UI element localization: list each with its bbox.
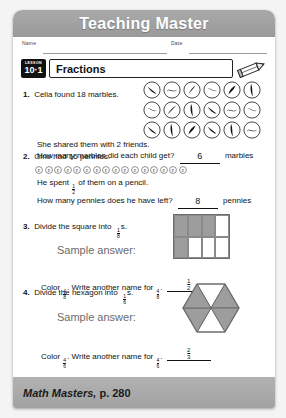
square-figure[interactable] (173, 214, 230, 259)
fraction-one-eighth: 1 8 (117, 228, 120, 239)
fraction-four-sixths-2: 4 6 (157, 358, 160, 369)
penny-icon: P (64, 166, 72, 174)
marble-icon (223, 81, 241, 99)
problem-1-number: 1. (23, 90, 30, 99)
penny-icon: P (93, 166, 101, 174)
page-background: Teaching Master Name Date LESSON 10·1 Fr… (0, 0, 286, 418)
problem-1: 1. Celia found 18 marbles. (23, 83, 265, 141)
marble-icon (183, 121, 201, 139)
fraction-denominator: 6 (63, 363, 66, 369)
banner-title: Teaching Master (79, 15, 209, 33)
penny-icon: P (73, 166, 81, 174)
marble-icon (183, 81, 201, 99)
square-cell[interactable] (215, 215, 229, 237)
fraction-denominator: 6 (123, 299, 126, 305)
penny-icon: P (45, 166, 53, 174)
marble-icon (203, 101, 221, 119)
penny-icon: P (160, 166, 168, 174)
problem-3-prompt-post: s. (121, 222, 127, 231)
problem-4-color-pre: Color (41, 352, 60, 361)
problem-3: 3. Divide the square into 1 8 s. Sample … (23, 215, 265, 277)
lesson-title: Fractions (56, 63, 106, 75)
marble-icon (143, 121, 161, 139)
lesson-title-box: Fractions (49, 59, 233, 78)
penny-icon: P (141, 166, 149, 174)
penny-icon: P (54, 166, 62, 174)
date-label: Date (171, 40, 182, 46)
hexagon-svg (175, 279, 247, 337)
penny-icon: P (112, 166, 120, 174)
name-label: Name (22, 40, 36, 46)
square-cell[interactable] (202, 237, 216, 259)
problem-4-prompt-pre: Divide the hexagon into (34, 288, 118, 297)
footer-source-line: Math Masters, p. 280 (23, 387, 131, 399)
problem-2-line2-pre: He spent (37, 178, 69, 187)
teaching-master-banner: Teaching Master (13, 10, 275, 37)
problem-2: 2. Gino had 16 pennies. P P P P P P P P … (23, 145, 265, 209)
fraction-four-sixths: 4 6 (63, 358, 66, 369)
date-input-line[interactable] (189, 53, 267, 54)
problem-2-line3: How many pennies does he have left? 8 pe… (37, 195, 265, 209)
problem-4-color-post: . (160, 352, 162, 361)
penny-icon: P (121, 166, 129, 174)
worksheet-footer: Math Masters, p. 280 (13, 377, 275, 408)
lesson-badge-number: 10·1 (24, 66, 42, 75)
fraction-one-half: 1 2 (72, 184, 75, 195)
worksheet-sheet: Teaching Master Name Date LESSON 10·1 Fr… (13, 10, 275, 408)
fraction-denominator: 6 (157, 363, 160, 369)
marble-icon (143, 101, 161, 119)
penny-collection: P P P P P P P P P P P P P P P P (35, 166, 265, 174)
hexagon-figure[interactable] (175, 279, 247, 335)
footer-page: p. 280 (99, 387, 130, 399)
marble-icon (163, 81, 181, 99)
penny-icon: P (150, 166, 158, 174)
problem-4: 4. Divide the hexagon into 1 6 s. Sample… (23, 281, 265, 349)
penny-icon: P (169, 166, 177, 174)
square-grid (173, 214, 230, 259)
problem-2-number: 2. (23, 152, 30, 161)
marble-icon (163, 121, 181, 139)
problem-3-number: 3. (23, 222, 30, 231)
problem-2-answer-blank[interactable]: 8 (178, 197, 218, 209)
problem-1-prompt: Celia found 18 marbles. (34, 90, 119, 99)
marble-icon (183, 101, 201, 119)
marble-collection (143, 81, 263, 141)
answer-denominator: 3 (187, 353, 190, 360)
name-input-line[interactable] (43, 53, 167, 54)
penny-icon: P (35, 166, 43, 174)
problem-2-question: How many pennies does he have left? (37, 196, 173, 205)
penny-icon: P (179, 166, 187, 174)
marble-icon (223, 101, 241, 119)
footer-source: Math Masters, (23, 387, 96, 399)
lesson-badge: LESSON 10·1 (21, 59, 46, 78)
square-cell[interactable] (202, 215, 216, 237)
marble-icon (223, 121, 241, 139)
problem-4-color-line: Color 4 6 . Write another name for 4 6 .… (41, 349, 265, 369)
square-cell[interactable] (174, 237, 188, 259)
problem-2-answer: 8 (195, 196, 200, 206)
problem-2-unit: pennies (223, 196, 251, 205)
fraction-one-sixth: 1 6 (123, 294, 126, 305)
penny-icon: P (131, 166, 139, 174)
square-cell[interactable] (188, 215, 202, 237)
marble-icon (163, 101, 181, 119)
square-cell[interactable] (215, 237, 229, 259)
fraction-denominator: 8 (117, 233, 120, 239)
name-date-row: Name Date (21, 40, 267, 57)
marble-icon (203, 121, 221, 139)
square-cell[interactable] (174, 215, 188, 237)
problem-4-answer-blank[interactable]: 2 3 (167, 349, 211, 361)
problem-2-line2-post: of them on a pencil. (78, 178, 148, 187)
problem-3-prompt-pre: Divide the square into (34, 222, 111, 231)
marble-icon (243, 121, 261, 139)
pencil-icon (235, 58, 269, 80)
problem-4-answer-fraction: 2 3 (187, 347, 190, 360)
penny-icon: P (102, 166, 110, 174)
marble-icon (243, 101, 261, 119)
marble-icon (243, 81, 261, 99)
problem-4-number: 4. (23, 288, 30, 297)
problem-4-prompt-post: s. (127, 288, 133, 297)
square-cell[interactable] (188, 237, 202, 259)
problem-2-line2: He spent 1 2 of them on a pencil. (37, 177, 265, 195)
lesson-title-row: LESSON 10·1 Fractions (21, 58, 267, 81)
